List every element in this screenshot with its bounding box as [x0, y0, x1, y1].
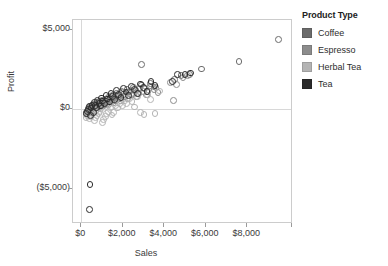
- legend-color-swatch: [302, 45, 312, 55]
- x-tick-mark: [205, 223, 206, 227]
- data-point: [236, 58, 243, 65]
- y-axis-ticks: $5,000$0($5,000): [0, 0, 70, 266]
- data-point: [170, 97, 177, 104]
- legend-item-label: Espresso: [318, 45, 356, 55]
- data-point: [198, 66, 205, 73]
- data-point: [118, 94, 125, 101]
- y-tick-label: $0: [4, 102, 70, 112]
- legend-title: Product Type: [302, 10, 386, 20]
- legend-item-herbal-tea[interactable]: Herbal Tea: [302, 58, 386, 75]
- legend-items: CoffeeEspressoHerbal TeaTea: [302, 24, 386, 92]
- legend-item-label: Tea: [318, 79, 333, 89]
- legend-item-coffee[interactable]: Coffee: [302, 24, 386, 41]
- data-point: [141, 111, 148, 118]
- legend-item-tea[interactable]: Tea: [302, 75, 386, 92]
- y-tick-label: ($5,000): [4, 182, 70, 192]
- data-point: [86, 206, 93, 213]
- data-point: [156, 88, 163, 95]
- x-tick-label: $2,000: [108, 228, 136, 238]
- data-point: [147, 96, 154, 103]
- legend-color-swatch: [302, 62, 312, 72]
- data-point: [275, 36, 282, 43]
- y-tick-label: $5,000: [4, 23, 70, 33]
- x-tick-label: $6,000: [191, 228, 219, 238]
- x-tick-mark: [246, 223, 247, 227]
- x-tick-mark: [163, 223, 164, 227]
- y-tick-mark: [68, 108, 72, 109]
- x-tick-label: $4,000: [150, 228, 178, 238]
- data-point: [125, 92, 132, 99]
- legend-item-espresso[interactable]: Espresso: [302, 41, 386, 58]
- data-point: [152, 110, 159, 117]
- scatter-chart: Profit $5,000$0($5,000) Sales Product Ty…: [0, 0, 388, 266]
- data-point: [87, 181, 94, 188]
- data-point: [169, 78, 176, 85]
- x-tick-mark: [80, 223, 81, 227]
- data-point: [187, 70, 194, 77]
- x-tick-label: $8,000: [233, 228, 261, 238]
- y-tick-mark: [68, 188, 72, 189]
- legend: Product Type CoffeeEspressoHerbal TeaTea: [302, 10, 386, 92]
- x-tick-label: $0: [75, 228, 85, 238]
- zero-sales-gridline: [81, 20, 82, 222]
- data-point: [134, 90, 141, 97]
- legend-color-swatch: [302, 79, 312, 89]
- legend-color-swatch: [302, 28, 312, 38]
- data-point: [138, 61, 145, 68]
- x-tick-mark: [122, 223, 123, 227]
- x-tick-mark: [291, 223, 292, 227]
- legend-item-label: Herbal Tea: [318, 62, 361, 72]
- y-tick-mark: [68, 29, 72, 30]
- legend-item-label: Coffee: [318, 28, 344, 38]
- x-axis-title: Sales: [0, 248, 292, 258]
- plot-area: [72, 19, 292, 223]
